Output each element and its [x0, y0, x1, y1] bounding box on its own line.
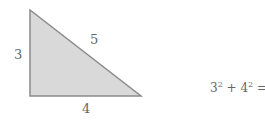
eq-equals: = [257, 81, 265, 95]
eq-plus: + [227, 81, 237, 95]
right-triangle [30, 10, 141, 96]
side-b-label: 4 [82, 102, 90, 115]
eq-b: 4 [240, 81, 248, 95]
eq-b-exp: 2 [248, 80, 253, 89]
pythagorean-equation: 32 + 42 = 52 [210, 80, 265, 95]
eq-a: 3 [210, 81, 218, 95]
triangle-graphic [0, 0, 265, 121]
hypotenuse-label: 5 [90, 33, 98, 46]
eq-a-exp: 2 [218, 80, 223, 89]
side-a-label: 3 [14, 48, 22, 61]
